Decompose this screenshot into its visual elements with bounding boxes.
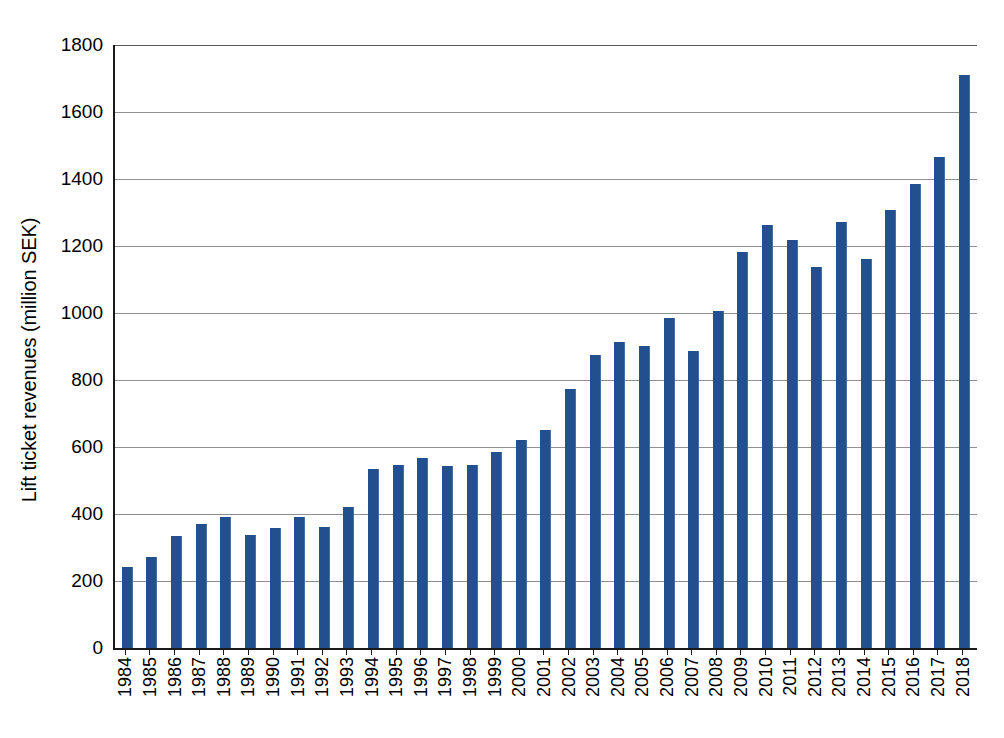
bar (343, 507, 354, 648)
bar-slot (460, 45, 485, 648)
bar (664, 318, 675, 648)
x-label-slot: 2014 (852, 655, 877, 721)
x-label-slot: 2009 (729, 655, 754, 721)
x-tick-label: 2001 (535, 657, 553, 697)
x-label-slot: 1994 (359, 655, 384, 721)
bar (270, 528, 281, 648)
x-label-slot: 1984 (113, 655, 138, 721)
bar-slot (386, 45, 411, 648)
bar-slot (755, 45, 780, 648)
bar-slot (509, 45, 534, 648)
bar (393, 465, 404, 648)
x-tick-label: 2002 (560, 657, 578, 697)
bar (885, 210, 896, 648)
x-tick-label: 2008 (707, 657, 725, 697)
x-tick-label: 1990 (264, 657, 282, 697)
x-label-slot: 2000 (507, 655, 532, 721)
bar-slot (681, 45, 706, 648)
x-label-slot: 2005 (630, 655, 655, 721)
bar-slot (411, 45, 436, 648)
bar-slot (361, 45, 386, 648)
bar-slot (337, 45, 362, 648)
x-label-slot: 2008 (704, 655, 729, 721)
y-tick-label: 1600 (45, 102, 103, 121)
bar-slot (805, 45, 830, 648)
bar (639, 346, 650, 648)
x-tick-label: 1988 (215, 657, 233, 697)
y-tick-label: 200 (45, 571, 103, 590)
x-tick-label: 1991 (289, 657, 307, 697)
bar (245, 535, 256, 648)
x-tick-label: 1985 (141, 657, 159, 697)
x-tick-label: 1996 (412, 657, 430, 697)
x-tick-label: 1984 (116, 657, 134, 697)
bar (836, 222, 847, 648)
bar (491, 452, 502, 648)
x-label-slot: 1996 (409, 655, 434, 721)
x-label-slot: 1992 (310, 655, 335, 721)
x-label-slot: 1985 (138, 655, 163, 721)
bar-slot (312, 45, 337, 648)
plot-area (113, 45, 977, 650)
bar (196, 524, 207, 648)
x-label-slot: 2018 (950, 655, 975, 721)
bar (934, 157, 945, 648)
x-tick-label: 2014 (855, 657, 873, 697)
bar-slot (558, 45, 583, 648)
x-tick-label: 1986 (166, 657, 184, 697)
bar (811, 267, 822, 648)
x-label-slot: 2017 (926, 655, 951, 721)
y-axis-tick-labels: 180016001400120010008006004002000 (45, 45, 103, 648)
x-label-slot: 1986 (162, 655, 187, 721)
x-tick-label: 2009 (732, 657, 750, 697)
x-tick-label: 2007 (683, 657, 701, 697)
x-label-slot: 2003 (581, 655, 606, 721)
bar-slot (263, 45, 288, 648)
x-tick-label: 2000 (510, 657, 528, 697)
bar (467, 465, 478, 648)
y-tick-label: 1400 (45, 169, 103, 188)
x-axis-tick-labels: 1984198519861987198819891990199119921993… (113, 655, 975, 721)
bar (861, 259, 872, 648)
x-tick-label: 1998 (461, 657, 479, 697)
bar (417, 458, 428, 648)
bar (442, 466, 453, 648)
y-tick-label: 400 (45, 504, 103, 523)
x-tick-label: 2006 (658, 657, 676, 697)
bar-slot (657, 45, 682, 648)
x-label-slot: 2012 (803, 655, 828, 721)
x-tick-label: 2015 (880, 657, 898, 697)
x-tick-label: 2005 (633, 657, 651, 697)
x-tick-label: 2004 (609, 657, 627, 697)
bar (590, 355, 601, 648)
bar-slot (534, 45, 559, 648)
bar (516, 440, 527, 648)
bar (540, 430, 551, 648)
x-label-slot: 1988 (212, 655, 237, 721)
bar (959, 75, 970, 648)
bar-chart-figure: Lift ticket revenues (million SEK) 18001… (0, 0, 1004, 738)
bar-slot (706, 45, 731, 648)
bar-slot (903, 45, 928, 648)
bar-slot (952, 45, 977, 648)
x-label-slot: 1991 (285, 655, 310, 721)
bar (688, 351, 699, 648)
bar-slot (583, 45, 608, 648)
x-label-slot: 2001 (532, 655, 557, 721)
bar (220, 517, 231, 648)
bar-slot (632, 45, 657, 648)
y-axis-title: Lift ticket revenues (million SEK) (12, 30, 46, 690)
x-tick-label: 2018 (954, 657, 972, 697)
bar (713, 311, 724, 648)
x-label-slot: 1999 (482, 655, 507, 721)
bar-slot (115, 45, 140, 648)
bar-slot (238, 45, 263, 648)
x-tick-label: 2012 (806, 657, 824, 697)
bar-slot (731, 45, 756, 648)
bar (368, 469, 379, 648)
bar-slot (140, 45, 165, 648)
x-tick-label: 1987 (190, 657, 208, 697)
bar-slot (780, 45, 805, 648)
x-tick-label: 2011 (781, 657, 799, 696)
bar-slot (829, 45, 854, 648)
